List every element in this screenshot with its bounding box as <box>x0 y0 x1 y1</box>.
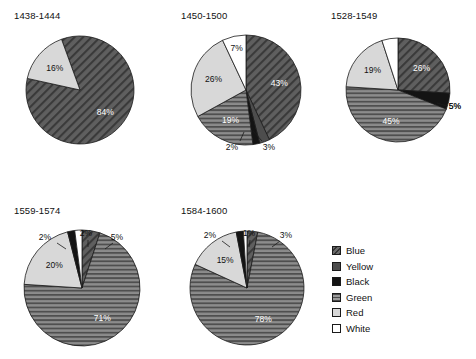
pie-slice-label: 84% <box>97 107 114 117</box>
pie-slice-label: 19% <box>364 65 381 75</box>
legend-item-white: White <box>332 321 452 337</box>
legend-item-red: Red <box>332 305 452 321</box>
pie-slice-label: 78% <box>255 314 272 324</box>
pie-slice-label: 71% <box>94 313 111 323</box>
pie-slice-label: 2% <box>80 228 93 238</box>
legend-swatch-green-icon <box>332 293 341 302</box>
pie-slice-label: 3% <box>263 142 276 152</box>
pie-slice-label: 2% <box>39 232 52 242</box>
pie-slice-label: 43% <box>271 78 288 88</box>
pie-slice-label: 26% <box>413 63 430 73</box>
pie-slice-label: 2% <box>204 230 217 240</box>
legend-label-black: Black <box>346 277 369 287</box>
legend-swatch-black-icon <box>332 277 341 286</box>
pie-slice-label: 16% <box>46 63 63 73</box>
pie-slice-label: 2% <box>226 142 239 152</box>
pie-slice-label: 26% <box>205 74 222 84</box>
legend-swatch-white-icon <box>332 324 341 333</box>
legend-swatch-blue-icon <box>332 246 341 255</box>
pie-slice-label: 5% <box>449 101 462 111</box>
pie-slice-label: 20% <box>46 260 63 270</box>
legend-item-blue: Blue <box>332 243 452 259</box>
legend-label-white: White <box>346 324 370 334</box>
pie-slice-label: 1% <box>243 228 256 238</box>
legend-label-red: Red <box>346 308 363 318</box>
legend-item-black: Black <box>332 274 452 290</box>
pie-slice-label: 3% <box>280 230 293 240</box>
legend-label-yellow: Yellow <box>346 262 373 272</box>
legend-item-yellow: Yellow <box>332 259 452 275</box>
pie-slice-label: 5% <box>111 232 124 242</box>
panel-title-1: 1438-1444 <box>14 10 60 21</box>
panel-title-5: 1584-1600 <box>181 205 227 216</box>
pie-slice-label: 45% <box>382 116 399 126</box>
pie-slice-label: 15% <box>217 255 234 265</box>
pie-slice-label: 19% <box>222 115 239 125</box>
legend-swatch-red-icon <box>332 308 341 317</box>
legend-label-green: Green <box>346 293 372 303</box>
panel-title-2: 1450-1500 <box>181 10 227 21</box>
legend-label-blue: Blue <box>346 246 365 256</box>
pie-slice-label: 7% <box>230 43 243 53</box>
panel-title-4: 1559-1574 <box>14 205 60 216</box>
panel-title-3: 1528-1549 <box>331 10 377 21</box>
pie-chart-figure: 84%16%43%3%2%19%26%7%26%5%45%19%5%5%71%2… <box>0 0 476 359</box>
chart-legend: Blue Yellow Black Green Red White <box>332 243 452 336</box>
legend-item-green: Green <box>332 290 452 306</box>
legend-swatch-yellow-icon <box>332 262 341 271</box>
